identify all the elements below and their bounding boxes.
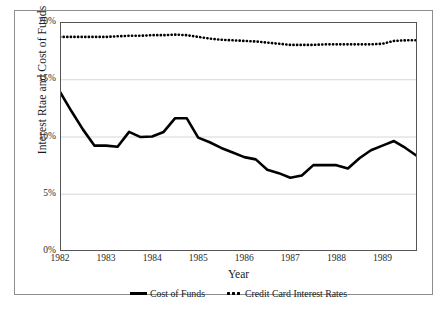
dotted-line-icon xyxy=(225,292,242,295)
legend-item-1[interactable]: Cost of Funds xyxy=(130,288,205,299)
chart-legend: Cost of FundsCredit Card Interest Rates xyxy=(60,286,417,300)
solid-line-icon xyxy=(130,292,147,295)
x-tick-label: 1982 xyxy=(38,254,82,264)
legend-item-label: Cost of Funds xyxy=(150,288,205,299)
series-line-2 xyxy=(60,35,417,45)
x-tick-label: 1983 xyxy=(84,254,128,264)
legend-item-2[interactable]: Credit Card Interest Rates xyxy=(225,288,347,299)
x-tick-label: 1988 xyxy=(314,254,358,264)
y-tick-label: 15% xyxy=(22,74,56,84)
y-axis-ticks: 0%5%10%15%20% xyxy=(18,22,56,251)
x-tick-label: 1989 xyxy=(360,254,404,264)
x-tick-label: 1987 xyxy=(268,254,312,264)
x-tick-label: 1986 xyxy=(222,254,266,264)
gridlines xyxy=(60,80,417,195)
data-series-group xyxy=(60,35,417,178)
y-tick-label: 5% xyxy=(22,189,56,199)
series-line-1 xyxy=(60,92,417,178)
y-tick-label: 20% xyxy=(22,17,56,27)
y-tick-label: 10% xyxy=(22,132,56,142)
plot-canvas xyxy=(60,22,417,251)
x-tick-label: 1984 xyxy=(130,254,174,264)
legend-item-label: Credit Card Interest Rates xyxy=(245,288,347,299)
chart-figure: Interest Rtae and Cost of Funds 0%5%10%1… xyxy=(0,0,447,318)
plot-area xyxy=(60,22,417,251)
x-axis-label: Year xyxy=(60,268,417,280)
x-tick-label: 1985 xyxy=(176,254,220,264)
